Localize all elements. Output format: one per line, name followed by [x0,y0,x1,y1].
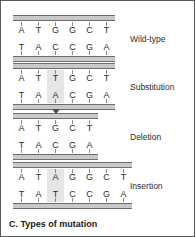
base-letter-top: T [30,123,47,133]
backbone-top-insertion [13,162,132,168]
base-tick-bottom [89,198,90,202]
base-tick-bottom [72,149,73,153]
base-letter-top: G [47,123,64,133]
base-letter-top: T [98,25,115,35]
base-pairs-deletion: ATTAGCCGTA [13,120,98,153]
base-pair-column: GC [64,22,81,55]
base-pair-column: GC [81,169,98,202]
base-pair-column: TA [30,70,47,103]
base-pair-column: AT [13,120,30,153]
row-label-deletion: Deletion [130,132,161,142]
dna-strand-insertion: ATTAATGCGCCGTA [13,162,132,209]
dna-strand-substitution: ATTATAGCCGTA [13,63,115,110]
base-letter-top: C [81,25,98,35]
figure-caption: C. Types of mutation [9,219,97,230]
base-letter-top: A [47,172,64,182]
base-tick-bottom [21,51,22,55]
base-letter-top: T [30,172,47,182]
backbone-bottom-wild-type [13,56,115,62]
dna-panel-deletion: ATTAGCCGTA [13,113,98,160]
base-letter-top: A [13,172,30,182]
dna-panel-wild-type: ATTAGCGCCGTA [13,15,115,62]
base-tick-bottom [38,99,39,103]
base-tick-bottom [106,198,107,202]
dna-strand-deletion: ATTAGCCGTA [13,113,98,160]
base-tick-bottom [38,198,39,202]
base-pair-column: GC [47,120,64,153]
base-tick-bottom [55,149,56,153]
base-letter-top: T [81,123,98,133]
base-pair-column: AT [13,70,30,103]
base-pair-column: TA [98,70,115,103]
base-tick-bottom [123,198,124,202]
base-pairs-insertion: ATTAATGCGCCGTA [13,169,132,202]
base-letter-top: T [30,73,47,83]
base-pair-column: CG [81,70,98,103]
backbone-top-substitution [13,63,115,69]
base-pair-column: AT [13,22,30,55]
base-tick-bottom [89,149,90,153]
backbone-bottom-substitution [13,104,115,110]
base-tick-bottom [72,198,73,202]
base-tick-bottom [21,198,22,202]
base-pair-column: TA [98,22,115,55]
base-letter-top: C [98,172,115,182]
base-letter-top: A [13,73,30,83]
backbone-bottom-deletion [13,154,98,160]
base-letter-top: G [64,172,81,182]
base-tick-bottom [106,99,107,103]
base-pair-column: TA [81,120,98,153]
base-pair-column: AT [47,169,64,202]
base-letter-top: A [13,25,30,35]
base-tick-bottom [55,198,56,202]
base-tick-bottom [21,99,22,103]
base-letter-top: G [64,73,81,83]
base-letter-top: G [81,172,98,182]
base-letter-top: G [64,25,81,35]
base-pairs-substitution: ATTATAGCCGTA [13,70,115,103]
base-letter-top: T [30,25,47,35]
base-tick-bottom [38,149,39,153]
base-pair-column: TA [30,22,47,55]
base-letter-top: T [98,73,115,83]
base-pair-column: TA [30,169,47,202]
base-letter-top: G [47,25,64,35]
row-label-wild-type: Wild-type [130,34,165,44]
down-triangle-marker [52,109,60,114]
dna-panel-substitution: ATTATAGCCGTA [13,63,115,110]
base-pair-column: GC [64,70,81,103]
base-tick-bottom [38,51,39,55]
dna-strand-wild-type: ATTAGCGCCGTA [13,15,115,62]
base-tick-bottom [89,51,90,55]
base-pair-column: CG [64,120,81,153]
row-label-substitution: Substitution [130,82,174,92]
base-pair-column: GC [64,169,81,202]
base-tick-bottom [55,51,56,55]
base-pairs-wild-type: ATTAGCGCCGTA [13,22,115,55]
base-tick-bottom [55,99,56,103]
base-letter-top: C [81,73,98,83]
backbone-top-wild-type [13,15,115,21]
base-pair-column: CG [81,22,98,55]
mutation-types-figure: ATTAGCGCCGTAATTATAGCCGTAATTAGCCGTAATTAAT… [0,0,195,237]
base-pair-column: AT [13,169,30,202]
base-pair-column: TA [47,70,64,103]
base-letter-top: C [64,123,81,133]
base-pair-column: CG [98,169,115,202]
base-letter-top: T [47,73,64,83]
base-tick-bottom [72,51,73,55]
base-tick-bottom [72,99,73,103]
backbone-bottom-insertion [13,203,132,209]
row-label-insertion: Insertion [130,181,163,191]
base-tick-bottom [21,149,22,153]
dna-panel-insertion: ATTAATGCGCCGTA [13,162,132,209]
base-pair-column: GC [47,22,64,55]
base-tick-bottom [89,99,90,103]
base-pair-column: TA [30,120,47,153]
base-tick-bottom [106,51,107,55]
base-letter-top: A [13,123,30,133]
